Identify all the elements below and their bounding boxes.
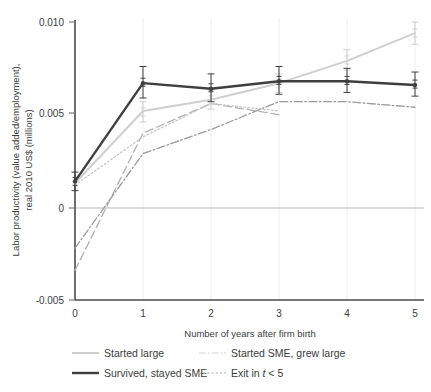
series-line [75,104,279,271]
legend-label-exit-in-t-lt-5: Exit in t < 5 [231,367,283,379]
gridlines [143,18,415,300]
y-ticks [69,22,75,300]
x-tick-label-4: 4 [344,308,350,319]
data-point-marker [73,179,77,183]
x-tick-label-3: 3 [276,308,282,319]
y-tick-label-0: 0.010 [39,17,64,28]
data-point-marker [277,79,281,83]
x-tick-label-5: 5 [412,308,418,319]
legend-label-started-large: Started large [104,347,164,359]
y-axis-title-line2: real 2010 US$ (millions) [23,109,34,210]
series-started-large [75,22,419,183]
data-point-marker [209,87,213,91]
data-point-marker [413,83,417,87]
series-line [75,104,279,186]
legend-label-started-sme-grew-large: Started SME, grew large [231,347,346,359]
x-tick-label-0: 0 [72,308,78,319]
y-tick-label-3: -0.005 [36,295,65,306]
series-exit-in-t-5 [75,104,279,186]
y-tick-label-1: 0.005 [39,108,64,119]
legend-label-survived-stayed-sme: Survived, stayed SME [104,367,207,379]
data-point-marker [141,81,145,85]
x-tick-label-2: 2 [208,308,214,319]
x-tick-label-1: 1 [140,308,146,319]
legend: Started large Started SME, grew large Su… [72,347,346,379]
data-point-marker [345,79,349,83]
series-line [75,102,415,248]
legend-exit-pre: Exit in [231,367,263,379]
series-exit-in-t-5-lower [75,104,279,271]
legend-exit-post: < 5 [265,367,283,379]
series-started-sme-grew-large [75,102,415,248]
x-axis-title: Number of years after firm birth [184,328,315,339]
chart-figure: 0.010 0.005 0 -0.005 0 1 2 3 4 5 Labor p… [0,0,431,392]
series-layer [72,22,419,270]
y-axis-title-line1: Labor productivity (value added/employme… [10,64,21,257]
y-tick-label-2: 0 [58,203,64,214]
